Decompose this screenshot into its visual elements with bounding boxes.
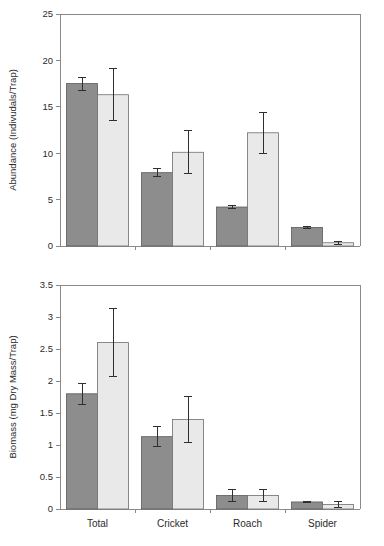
abundance-plot: 0510152025Abundance (Indivudals/Trap) <box>0 0 384 273</box>
bar-biomass-cricket-dark <box>142 437 173 509</box>
bar-abundance-roach-dark <box>217 207 248 246</box>
bar-biomass-total-dark <box>67 394 98 509</box>
y-tick-label: 0.5 <box>40 471 53 482</box>
y-tick-label: 5 <box>48 194 53 205</box>
y-tick-label: 2.5 <box>40 343 53 354</box>
x-category-label-cricket: Cricket <box>157 518 188 529</box>
figure-two-panel-bar-chart: 0510152025Abundance (Indivudals/Trap) 00… <box>0 0 384 546</box>
panel-biomass: 00.511.522.533.5Biomass (mg Dry Mass/Tra… <box>0 273 384 546</box>
y-tick-label: 10 <box>42 148 53 159</box>
y-tick-label: 15 <box>42 101 53 112</box>
x-category-label-roach: Roach <box>233 518 262 529</box>
y-tick-label: 0 <box>48 503 53 514</box>
y-tick-label: 1.5 <box>40 407 53 418</box>
x-category-label-total: Total <box>87 518 108 529</box>
bar-abundance-spider-dark <box>292 227 323 246</box>
y-tick-label: 0 <box>48 240 53 251</box>
y-tick-label: 3 <box>48 311 53 322</box>
panel-abundance: 0510152025Abundance (Indivudals/Trap) <box>0 0 384 273</box>
y-tick-label: 2 <box>48 375 53 386</box>
bar-abundance-cricket-dark <box>142 173 173 246</box>
y-axis-title: Abundance (Indivudals/Trap) <box>7 69 18 191</box>
y-axis-title: Biomass (mg Dry Mass/Trap) <box>7 335 18 458</box>
y-tick-label: 25 <box>42 8 53 19</box>
biomass-plot: 00.511.522.533.5Biomass (mg Dry Mass/Tra… <box>0 273 384 546</box>
x-category-label-spider: Spider <box>308 518 338 529</box>
y-tick-label: 1 <box>48 439 53 450</box>
y-tick-label: 20 <box>42 55 53 66</box>
y-tick-label: 3.5 <box>40 279 53 290</box>
bar-abundance-total-dark <box>67 84 98 246</box>
